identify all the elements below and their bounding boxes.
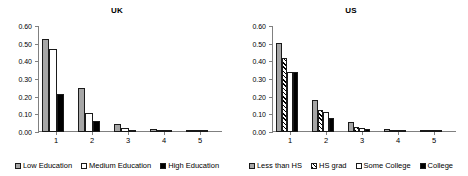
legend-swatch-icon [249,163,255,169]
bar [193,130,200,132]
x-axis-tick [200,132,201,135]
bar-group [78,26,100,132]
x-axis-tick [362,132,363,135]
x-axis-tick [398,132,399,135]
x-axis-tick-label: 3 [126,137,130,145]
legend-swatch-icon [311,163,317,169]
legend-item: Medium Education [81,161,151,170]
plot-area-us: 0.000.100.200.300.400.500.6012345 [272,26,452,132]
bar [165,130,172,132]
x-axis-tick [326,132,327,135]
legend-label: Medium Education [89,161,151,170]
y-axis-tick-label: 0.20 [252,93,266,100]
y-axis-tick-label: 0.30 [18,76,32,83]
bar [114,124,121,132]
y-axis-tick [35,132,39,133]
legend-item: Less than HS [249,161,302,170]
y-axis-tick-label: 0.10 [18,111,32,118]
legend-item: College [420,161,453,170]
legend-label: Low Education [23,161,72,170]
y-axis-tick-label: 0.60 [18,23,32,30]
bar [329,118,335,132]
bar [121,128,128,132]
bar-group [420,26,442,132]
legend-label: Some College [364,161,411,170]
y-axis-tick-label: 0.00 [252,129,266,136]
bar [57,94,64,132]
chart-title-uk: UK [0,6,234,15]
y-axis-tick [269,132,273,133]
y-axis-tick-label: 0.00 [18,129,32,136]
x-axis-tick-label: 1 [288,137,292,145]
bar [293,72,299,132]
legend-label: HS grad [319,161,347,170]
legend-item: Low Education [15,161,72,170]
bar [157,130,164,132]
x-axis-tick [434,132,435,135]
y-axis-tick [269,44,273,45]
legend-swatch-icon [420,163,426,169]
y-axis-tick [35,44,39,45]
bar-group [384,26,406,132]
legend-label: High Education [168,161,219,170]
legend-label: College [428,161,453,170]
legend-item: HS grad [311,161,347,170]
x-axis-tick-label: 3 [360,137,364,145]
x-axis-tick [92,132,93,135]
x-axis-tick-label: 4 [396,137,400,145]
x-axis-tick [290,132,291,135]
y-axis-tick [35,61,39,62]
bar [401,130,407,132]
bar-group [312,26,334,132]
bar [150,129,157,132]
x-axis-tick-label: 4 [162,137,166,145]
y-axis-tick-label: 0.40 [252,58,266,65]
bar [85,113,92,132]
y-axis-tick [269,97,273,98]
bar-group [348,26,370,132]
y-axis-tick [35,97,39,98]
x-axis-tick-label: 2 [90,137,94,145]
bar-group [150,26,172,132]
y-axis-tick-label: 0.40 [18,58,32,65]
bar [437,130,443,132]
y-axis-tick [35,114,39,115]
y-axis-tick-label: 0.30 [252,76,266,83]
legend-swatch-icon [356,163,362,169]
bar-group [186,26,208,132]
legend-us: Less than HSHS gradSome CollegeCollege [234,161,468,170]
bar [186,130,193,132]
y-axis-tick-label: 0.50 [18,40,32,47]
bar-group [42,26,64,132]
bar [49,49,56,132]
y-axis-tick-label: 0.60 [252,23,266,30]
bar-group [276,26,298,132]
chart-title-us: US [234,6,468,15]
y-axis-tick-label: 0.10 [252,111,266,118]
x-axis-tick-label: 1 [54,137,58,145]
bar [78,88,85,132]
bar [129,130,136,132]
chart-panel-us: US 0.000.100.200.300.400.500.6012345 Les… [234,0,468,176]
x-axis-tick-label: 5 [432,137,436,145]
legend-item: High Education [160,161,219,170]
bar [93,121,100,132]
legend-swatch-icon [160,163,166,169]
y-axis-tick-label: 0.50 [252,40,266,47]
figure-two-panel-bar-charts: UK 0.000.100.200.300.400.500.6012345 Low… [0,0,468,176]
bar [365,129,371,132]
y-axis-tick [269,114,273,115]
y-axis-tick [35,79,39,80]
y-axis-tick [269,79,273,80]
x-axis-tick-label: 2 [324,137,328,145]
y-axis-tick [269,61,273,62]
y-axis-tick-label: 0.20 [18,93,32,100]
x-axis-tick [56,132,57,135]
legend-uk: Low EducationMedium EducationHigh Educat… [0,161,234,170]
bar [42,39,49,132]
x-axis-tick-label: 5 [198,137,202,145]
y-axis-tick [35,26,39,27]
legend-swatch-icon [15,163,21,169]
legend-swatch-icon [81,163,87,169]
bar-group [114,26,136,132]
